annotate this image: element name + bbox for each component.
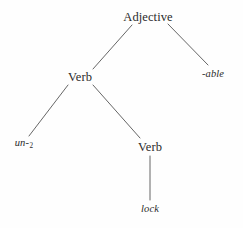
edge-adjective-to-able — [168, 24, 208, 65]
tree-node-verb-outer: Verb — [68, 71, 92, 84]
edge-verb-to-verb — [93, 85, 140, 138]
tree-node-verb-inner: Verb — [138, 141, 162, 154]
tree-node-root-lock: lock — [141, 204, 159, 215]
tree-node-suffix-able: -able — [202, 69, 224, 80]
morphology-tree-diagram: Adjective Verb -able un-2 Verb lock — [0, 0, 243, 228]
prefix-un-text: un- — [15, 137, 29, 148]
tree-edges-layer — [0, 0, 243, 228]
edge-adjective-to-verb — [93, 25, 132, 69]
edge-verb-to-un — [29, 85, 68, 136]
prefix-un-subscript: 2 — [29, 142, 33, 150]
tree-node-prefix-un: un-2 — [15, 138, 34, 150]
tree-node-adjective: Adjective — [123, 11, 173, 24]
